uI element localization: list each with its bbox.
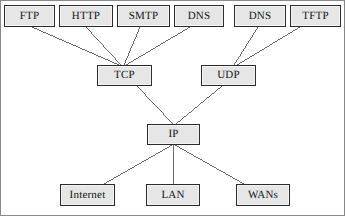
node-internet[interactable]: Internet bbox=[60, 184, 115, 206]
node-label-internet: Internet bbox=[70, 189, 106, 200]
node-udp[interactable]: UDP bbox=[201, 65, 256, 86]
node-ftp[interactable]: FTP bbox=[4, 5, 55, 27]
node-label-tcp: TCP bbox=[114, 70, 135, 81]
protocol-stack-diagram: FTPHTTPSMTPDNSDNSTFTPTCPUDPIPInternetLAN… bbox=[0, 0, 346, 217]
node-label-tftp: TFTP bbox=[302, 10, 328, 21]
node-label-ftp: FTP bbox=[20, 10, 40, 21]
edge-ip-wans bbox=[175, 145, 244, 184]
node-label-http: HTTP bbox=[72, 10, 100, 21]
edge-tcp-ip bbox=[137, 86, 173, 124]
node-label-wans: WANs bbox=[248, 189, 278, 200]
node-http[interactable]: HTTP bbox=[59, 5, 113, 27]
node-lan[interactable]: LAN bbox=[146, 184, 200, 206]
node-dns_udp[interactable]: DNS bbox=[234, 5, 286, 27]
edge-dns-tcp bbox=[126, 27, 190, 65]
edge-http-tcp bbox=[86, 27, 121, 65]
node-label-ip: IP bbox=[168, 129, 178, 140]
node-dns_tcp[interactable]: DNS bbox=[174, 5, 224, 27]
edge-ip-internet bbox=[104, 145, 172, 184]
edge-ftp-tcp bbox=[32, 27, 119, 65]
node-smtp[interactable]: SMTP bbox=[117, 5, 170, 27]
node-label-dns_udp: DNS bbox=[249, 10, 272, 21]
node-tcp[interactable]: TCP bbox=[97, 65, 152, 86]
node-label-lan: LAN bbox=[161, 189, 184, 200]
node-wans[interactable]: WANs bbox=[236, 184, 290, 206]
node-label-udp: UDP bbox=[217, 70, 240, 81]
node-ip[interactable]: IP bbox=[147, 124, 200, 145]
edge-udp-ip bbox=[176, 86, 222, 124]
node-label-smtp: SMTP bbox=[129, 10, 159, 21]
node-tftp[interactable]: TFTP bbox=[290, 5, 341, 27]
edge-smtp-tcp bbox=[124, 27, 140, 65]
node-label-dns_tcp: DNS bbox=[188, 10, 211, 21]
